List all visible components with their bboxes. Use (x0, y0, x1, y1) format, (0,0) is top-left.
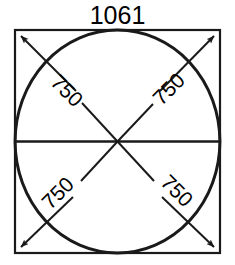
radial-leader-bottom-left (81, 142, 118, 182)
radial-label-bottom-left: 750 (37, 172, 78, 213)
radial-label-top-right: 750 (148, 68, 189, 109)
drawing-svg: 750 750 750 750 (0, 0, 235, 265)
radial-leader-top-right (118, 104, 154, 142)
radial-leader-top-left (82, 103, 118, 142)
radial-label-bottom-right: 750 (157, 170, 198, 211)
radial-leader-bottom-right (118, 142, 155, 182)
technical-drawing-canvas: 1061 (0, 0, 235, 265)
radial-label-top-left: 750 (47, 70, 88, 111)
